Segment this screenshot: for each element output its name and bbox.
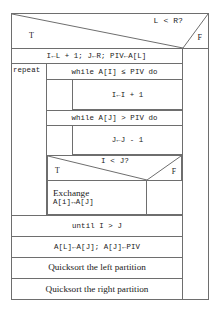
- repeat-keyword-label: repeat: [11, 64, 47, 215]
- decision-inner-true-label: T: [55, 166, 60, 175]
- exchange-statement: Exchange A[i]↔A[J]: [47, 181, 147, 215]
- statement-swap-pivot: A[L]←A[J]; A[J]←PIV: [11, 237, 182, 258]
- decision-top-true-label: T: [29, 31, 34, 40]
- quicksort-structogram: L < R? T F I←L + 1; J←R; PIV←A[L] repeat…: [11, 13, 209, 300]
- while-j-header: while A[J] > PIV do: [47, 110, 182, 126]
- while-i-header: while A[I] ≤ PIV do: [47, 64, 182, 80]
- statement-until: until I > J: [11, 215, 182, 237]
- statement-init: I←L + 1; J←R; PIV←A[L]: [11, 49, 182, 64]
- statement-recurse-left: Quicksort the left partition: [11, 258, 182, 279]
- statement-recurse-right: Quicksort the right partition: [11, 279, 182, 300]
- while-block-i: while A[I] ≤ PIV do I←I + 1: [47, 64, 182, 110]
- decision-inner-false-label: F: [172, 167, 176, 176]
- exchange-line-2: A[i]↔A[J]: [53, 198, 94, 206]
- false-branch-empty-column: [183, 49, 209, 300]
- decision-top-false-label: F: [198, 33, 202, 42]
- decision-block-i-lt-j: I < J? T F: [47, 155, 182, 181]
- exchange-false-empty: [147, 181, 182, 215]
- decision-block-l-lt-r: L < R? T F: [11, 13, 209, 49]
- decision-top-condition: L < R?: [154, 16, 183, 25]
- while-j-body: J←J - 1: [72, 126, 182, 155]
- while-i-body: I←I + 1: [72, 80, 182, 110]
- exchange-row: Exchange A[i]↔A[J]: [47, 181, 182, 215]
- repeat-block: repeat while A[I] ≤ PIV do I←I + 1 while…: [11, 64, 182, 215]
- while-block-j: while A[J] > PIV do J←J - 1: [47, 110, 182, 155]
- true-branch-body: I←L + 1; J←R; PIV←A[L] repeat while A[I]…: [11, 49, 183, 300]
- decision-inner-condition: I < J?: [101, 157, 129, 165]
- exchange-line-1: Exchange: [53, 189, 89, 199]
